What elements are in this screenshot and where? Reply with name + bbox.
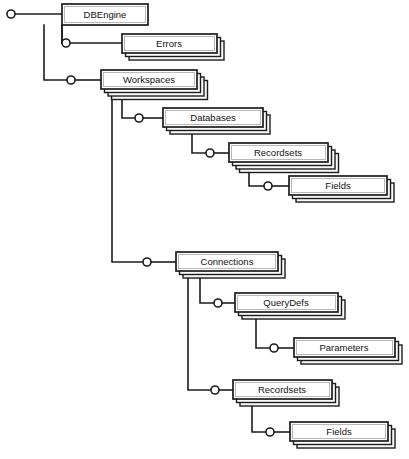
root-connector-node-icon[interactable] [7,10,15,18]
diagram-canvas: DAO Object Model Hierarchy DBEngineError… [0,0,409,459]
node-label: Fields [325,180,351,191]
node-label: Databases [190,112,236,123]
connector-node-icon-errors[interactable] [62,39,70,47]
object-hierarchy-diagram: DAO Object Model Hierarchy DBEngineError… [0,0,409,459]
node-databases[interactable]: Databases [163,108,270,134]
node-label: Workspaces [123,74,175,85]
connector-node-icon-conn-recordsets[interactable] [211,386,219,394]
node-querydefs[interactable]: QueryDefs [235,293,345,319]
connector-line-dbengine-trunk-workspaces [44,25,67,80]
connector-node-icon-parameters[interactable] [270,344,278,352]
node-label: QueryDefs [263,297,309,308]
node-parameters[interactable]: Parameters [294,338,402,364]
connector-node-icon-db-recordsets[interactable] [206,149,214,157]
node-db-recordsets[interactable]: Recordsets [229,143,339,173]
connector-node-icon-databases[interactable] [135,114,143,122]
node-layer: DBEngineErrorsWorkspacesDatabasesRecords… [62,4,402,448]
connector-node-icon-connections[interactable] [143,258,151,266]
node-db-fields[interactable]: Fields [289,176,394,202]
node-label: Fields [326,426,352,437]
node-workspaces[interactable]: Workspaces [101,70,208,100]
node-errors[interactable]: Errors [122,34,224,60]
node-label: Parameters [319,342,368,353]
node-label: Errors [156,38,182,49]
node-label: Recordsets [258,384,306,395]
node-label: Connections [201,256,254,267]
connector-node-icon-querydefs[interactable] [214,299,222,307]
connector-node-icon-workspaces[interactable] [67,76,75,84]
connector-node-icon-db-fields[interactable] [264,182,272,190]
connector-node-icon-conn-fields[interactable] [266,428,274,436]
node-label: DBEngine [84,9,127,20]
node-conn-recordsets[interactable]: Recordsets [233,380,339,406]
node-dbengine[interactable]: DBEngine [62,4,148,25]
node-connections[interactable]: Connections [176,252,285,278]
node-conn-fields[interactable]: Fields [290,422,395,448]
node-label: Recordsets [254,147,302,158]
